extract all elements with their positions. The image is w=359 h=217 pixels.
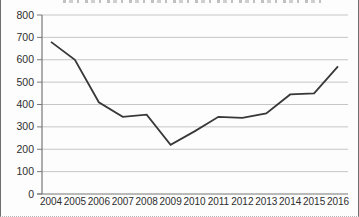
y-tick-label: 300 bbox=[16, 120, 34, 132]
line-chart: 0100200300400500600700800200420052006200… bbox=[1, 0, 359, 217]
data-line bbox=[51, 42, 338, 145]
x-tick-label: 2013 bbox=[255, 196, 278, 207]
x-tick-label: 2010 bbox=[183, 196, 206, 207]
x-tick-label: 2009 bbox=[159, 196, 182, 207]
chart-figure: 0100200300400500600700800200420052006200… bbox=[0, 0, 359, 217]
y-tick-label: 100 bbox=[16, 165, 34, 177]
x-tick-label: 2014 bbox=[279, 196, 302, 207]
x-tick-label: 2004 bbox=[40, 196, 63, 207]
x-tick-label: 2012 bbox=[231, 196, 254, 207]
x-tick-label: 2007 bbox=[112, 196, 135, 207]
y-tick-label: 700 bbox=[16, 31, 34, 43]
x-tick-label: 2006 bbox=[88, 196, 111, 207]
y-tick-label: 500 bbox=[16, 76, 34, 88]
x-tick-label: 2016 bbox=[327, 196, 350, 207]
x-tick-label: 2011 bbox=[208, 196, 230, 207]
y-tick-label: 800 bbox=[16, 9, 34, 21]
x-tick-label: 2005 bbox=[64, 196, 87, 207]
y-tick-label: 400 bbox=[16, 98, 34, 110]
x-tick-label: 2015 bbox=[303, 196, 326, 207]
y-tick-label: 600 bbox=[16, 53, 34, 65]
y-tick-label: 200 bbox=[16, 143, 34, 155]
y-tick-label: 0 bbox=[28, 188, 34, 200]
x-tick-label: 2008 bbox=[136, 196, 159, 207]
